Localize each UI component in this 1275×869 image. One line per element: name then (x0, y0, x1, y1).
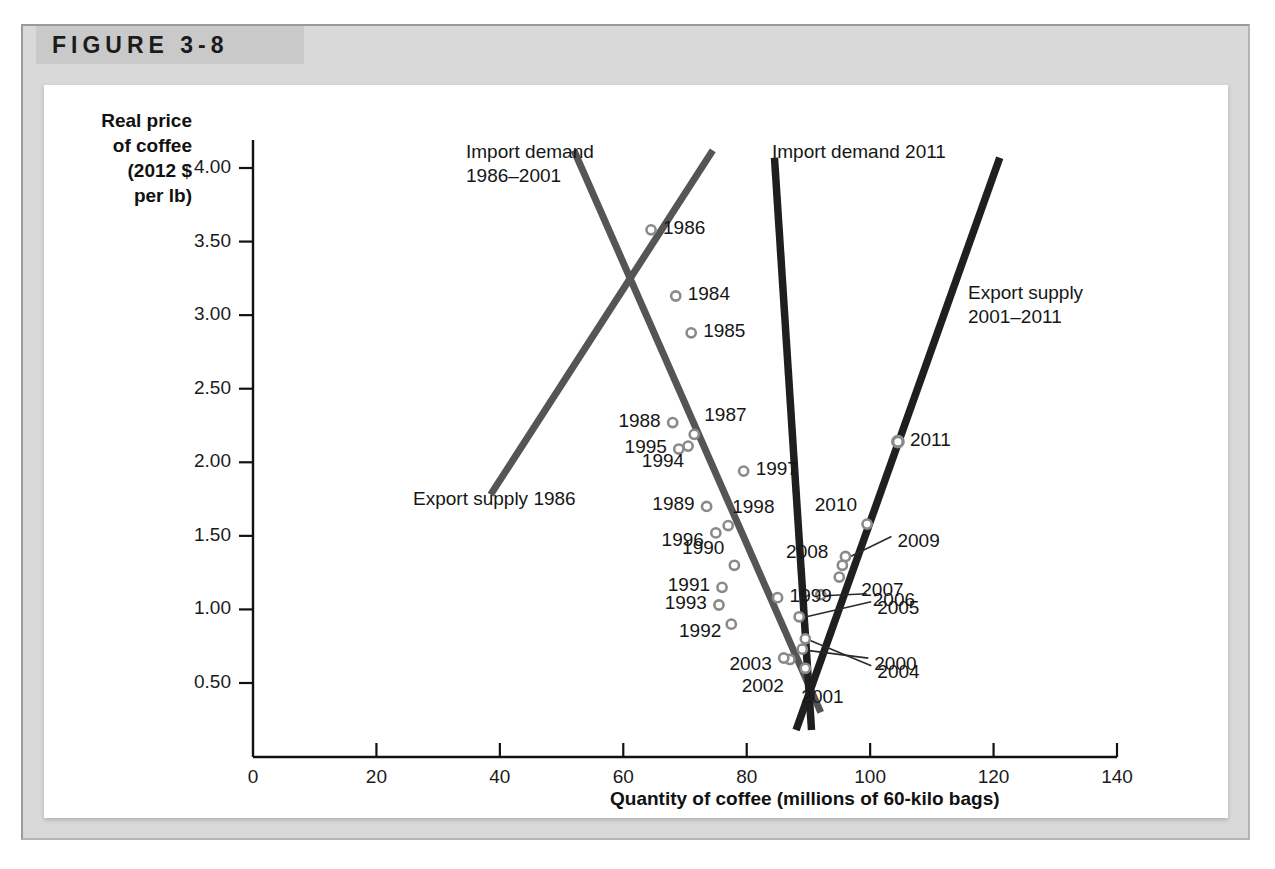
data-point-2000[interactable] (798, 645, 807, 654)
data-point-label-2011: 2011 (910, 429, 951, 451)
data-point-label-2001: 2001 (801, 686, 843, 708)
data-point-1987[interactable] (690, 430, 699, 439)
data-point-label-1998: 1998 (732, 496, 774, 518)
y-tick-label: 3.00 (167, 303, 231, 325)
curve-label-export-supply-2001-2011: Export supply 2001–2011 (968, 281, 1083, 329)
data-point-1986[interactable] (646, 225, 655, 234)
data-point-2009[interactable] (841, 552, 850, 561)
curve-label-import-demand-2011: Import demand 2011 (772, 140, 946, 164)
y-tick-label: 0.50 (167, 671, 231, 693)
data-point-label-1989: 1989 (652, 493, 694, 515)
y-axis-ticks (239, 168, 253, 683)
data-point-2010[interactable] (862, 519, 871, 528)
data-point-label-1986: 1986 (663, 217, 705, 239)
data-point-label-1993: 1993 (665, 592, 707, 614)
data-point-label-1997: 1997 (756, 458, 798, 480)
data-point-2005[interactable] (795, 612, 804, 621)
data-point-label-1995: 1995 (625, 436, 667, 458)
curve-label-export-supply-1986: Export supply 1986 (413, 487, 576, 511)
data-point-label-2008: 2008 (786, 541, 828, 563)
data-point-label-1996: 1996 (662, 529, 704, 551)
x-tick-label: 20 (336, 766, 416, 788)
data-point-label-1984: 1984 (688, 283, 730, 305)
data-point-label-2002: 2002 (742, 675, 784, 697)
data-point-label-1992: 1992 (679, 620, 721, 642)
data-point-1992[interactable] (727, 620, 736, 629)
data-point-1998[interactable] (724, 521, 733, 530)
y-tick-label: 4.00 (167, 156, 231, 178)
data-point-label-1987: 1987 (704, 404, 746, 426)
data-point-label-2010: 2010 (815, 494, 857, 516)
x-tick-label: 60 (583, 766, 663, 788)
leader-line-2009 (848, 536, 891, 557)
data-point-1984[interactable] (671, 291, 680, 300)
data-point-2001[interactable] (801, 664, 810, 673)
data-point-label-2004: 2004 (877, 661, 919, 683)
y-tick-label: 3.50 (167, 230, 231, 252)
data-point-2011[interactable] (893, 436, 903, 446)
data-point-1985[interactable] (687, 328, 696, 337)
x-tick-label: 40 (460, 766, 540, 788)
x-tick-label: 0 (213, 766, 293, 788)
data-point-1994[interactable] (683, 442, 692, 451)
data-point-1989[interactable] (702, 502, 711, 511)
data-point-label-1988: 1988 (618, 410, 660, 432)
data-point-label-2003: 2003 (729, 653, 771, 675)
x-tick-label: 140 (1077, 766, 1157, 788)
x-tick-label: 100 (830, 766, 910, 788)
data-point-1990[interactable] (730, 561, 739, 570)
data-point-1991[interactable] (717, 583, 726, 592)
data-point-1993[interactable] (714, 600, 723, 609)
data-point-label-2007: 2007 (861, 579, 903, 601)
data-point-label-1985: 1985 (703, 320, 745, 342)
y-tick-label: 1.50 (167, 524, 231, 546)
scatter-plot (0, 0, 1275, 869)
x-axis-ticks (376, 743, 1117, 757)
y-tick-label: 2.50 (167, 377, 231, 399)
data-point-label-2009: 2009 (897, 530, 939, 552)
data-point-1996[interactable] (711, 528, 720, 537)
x-tick-label: 80 (707, 766, 787, 788)
y-tick-label: 1.00 (167, 597, 231, 619)
x-tick-label: 120 (954, 766, 1034, 788)
data-point-2007[interactable] (835, 572, 844, 581)
data-point-1997[interactable] (739, 467, 748, 476)
figure-container: FIGURE 3-8 Real price of coffee (2012 $ … (0, 0, 1275, 869)
data-point-label-1999: 1999 (790, 585, 832, 607)
data-point-1988[interactable] (668, 418, 677, 427)
data-point-2004[interactable] (801, 634, 810, 643)
curve-export-supply-1986 (491, 150, 713, 494)
curve-label-import-demand-1986-2001: Import demand 1986–2001 (466, 140, 594, 188)
y-tick-label: 2.00 (167, 450, 231, 472)
data-point-2003[interactable] (779, 653, 788, 662)
data-point-1999[interactable] (773, 593, 782, 602)
